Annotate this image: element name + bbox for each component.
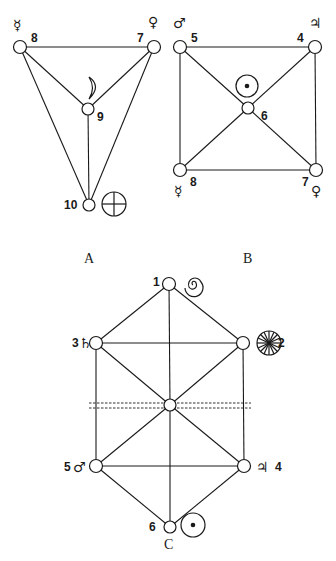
wheel-icon: [257, 331, 281, 355]
earth-icon: [102, 192, 126, 216]
sun-icon: [181, 513, 205, 537]
label-b-6: 6: [261, 109, 268, 123]
node-b-4: [309, 41, 322, 54]
node-b-6: [242, 102, 254, 114]
edge-a-9-10: [88, 109, 89, 205]
edge-a-8-10: [20, 47, 89, 205]
mars-icon: ♂: [173, 15, 186, 31]
node-a-8: [14, 41, 27, 54]
edge-b-4-7: [315, 47, 316, 170]
caption-b: B: [243, 251, 252, 266]
tree-of-life-diagrams: 8 7 9 10 ☿ ♀ A 5 4 6 8 7 ♂: [0, 0, 336, 561]
caption-c: C: [164, 537, 173, 552]
spiral-icon: [185, 278, 203, 297]
diagram-c: 1 2 3 ♄ 5 ♂ ♃ 4 6 C: [64, 275, 285, 552]
edge-c-1-2: [169, 284, 243, 343]
jupiter-icon: ♃: [256, 459, 269, 475]
edge-b-5-6: [180, 47, 248, 108]
node-a-10: [83, 199, 95, 211]
label-b-5: 5: [191, 31, 198, 45]
edge-c-center-5: [96, 405, 170, 466]
diagram-a: 8 7 9 10 ☿ ♀ A: [13, 14, 161, 266]
node-c-4: [238, 460, 251, 473]
edge-b-8-6: [180, 108, 248, 170]
mercury-icon: ☿: [174, 183, 183, 199]
edge-c-2-center: [170, 343, 243, 405]
label-b-8: 8: [190, 175, 197, 189]
edge-a-7-10: [89, 47, 154, 205]
caption-a: A: [84, 251, 95, 266]
mercury-icon: ☿: [13, 17, 22, 33]
edge-c-4-6: [170, 466, 244, 527]
jupiter-icon: ♃: [309, 15, 322, 31]
label-c-6: 6: [149, 520, 156, 534]
node-a-9: [82, 103, 94, 115]
edge-b-7-6: [248, 108, 316, 170]
moon-icon: [89, 77, 96, 99]
sun-icon: [236, 75, 258, 97]
node-c-5: [90, 460, 103, 473]
label-c-3: 3: [72, 336, 79, 350]
node-c-2: [237, 337, 250, 350]
label-c-5: 5: [64, 460, 71, 474]
label-c-4: 4: [275, 460, 282, 474]
diagram-b: 5 4 6 8 7 ♂ ♃ ☿ ♀ B: [173, 15, 323, 266]
edge-c-3-center: [96, 343, 170, 405]
label-c-1: 1: [153, 275, 160, 289]
node-c-center: [164, 399, 176, 411]
node-c-6: [164, 521, 176, 533]
label-a-8: 8: [31, 31, 38, 45]
mars-icon: ♂: [73, 459, 86, 475]
node-c-1: [163, 278, 176, 291]
label-a-9: 9: [97, 110, 104, 124]
node-a-7: [148, 41, 161, 54]
saturn-icon: ♄: [79, 335, 92, 351]
node-b-5: [174, 41, 187, 54]
edge-a-7-9: [88, 47, 154, 109]
edge-b-4-6: [248, 47, 315, 108]
edge-c-1-3: [96, 284, 169, 343]
node-b-7: [310, 164, 323, 177]
node-b-8: [174, 164, 187, 177]
edge-c-center-4: [170, 405, 244, 466]
edge-c-2-4: [243, 343, 244, 466]
venus-icon: ♀: [311, 183, 321, 199]
venus-icon: ♀: [148, 14, 158, 30]
label-a-10: 10: [64, 198, 78, 212]
edge-c-1-center: [169, 284, 170, 405]
label-b-4: 4: [297, 31, 304, 45]
label-a-7: 7: [137, 31, 144, 45]
label-b-7: 7: [302, 175, 309, 189]
edge-c-5-6: [96, 466, 170, 527]
edge-a-8-9: [20, 47, 88, 109]
